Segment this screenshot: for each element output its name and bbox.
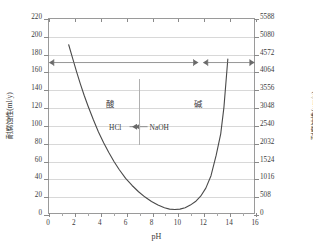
y-tick-label-left: 100 [12, 121, 42, 128]
y-tick-label-left: 140 [12, 86, 42, 93]
y-tick-label-left: 160 [12, 68, 42, 75]
y-tick-label-right: 2540 [260, 121, 274, 128]
x-tick-label: 10 [174, 220, 181, 227]
y-tick-label-right: 5080 [260, 32, 274, 39]
range-arrow-bars [48, 18, 255, 214]
y-tick-label-right: 4572 [260, 50, 274, 57]
hcl-label: HCl [109, 122, 121, 131]
y-tick-label-left: 120 [12, 103, 42, 110]
naoh-label: NaOH [150, 122, 169, 131]
y-tick-label-right: 0 [260, 210, 264, 217]
y-tick-label-right: 1016 [260, 175, 274, 182]
y-axis-title-left: 耐腐蚀性(ml/y) [3, 71, 14, 161]
x-tick-label: 4 [98, 220, 102, 227]
y-tick-label-left: 20 [12, 193, 42, 200]
alkali-label: 碱 [194, 97, 202, 109]
y-tick-label-left: 80 [12, 139, 42, 146]
y-tick-label-right: 1524 [260, 157, 274, 164]
y-tick-label-left: 180 [12, 50, 42, 57]
y-tick-label-left: 0 [12, 210, 42, 217]
y-tick-label-left: 220 [12, 14, 42, 21]
y-tick-label-left: 60 [12, 157, 42, 164]
y-tick-label-right: 5588 [260, 14, 274, 21]
x-tick-label: 6 [124, 220, 128, 227]
x-tick [256, 213, 257, 217]
x-tick-label: 16 [251, 220, 258, 227]
y-tick-label-right: 4064 [260, 68, 274, 75]
x-tick [256, 19, 257, 22]
y-tick-label-right: 3048 [260, 103, 274, 110]
x-tick-label: 2 [72, 220, 76, 227]
x-tick-label: 12 [200, 220, 207, 227]
y-tick-label-right: 2032 [260, 139, 274, 146]
neutral-divider-line [139, 79, 140, 145]
corrosion-ph-chart: 酸 碱 HCl NaOH pH 耐腐蚀性(ml/y) 耐腐蚀性(μm/y) 00… [0, 0, 313, 251]
y-tick-label-right: 3556 [260, 86, 274, 93]
y-tick-label-left: 200 [12, 32, 42, 39]
x-tick-label: 0 [46, 220, 50, 227]
y-tick-label-left: 40 [12, 175, 42, 182]
y-axis-title-right: 耐腐蚀性(μm/y) [308, 71, 314, 161]
x-axis-title: pH [0, 232, 313, 241]
x-tick-label: 8 [150, 220, 154, 227]
y-tick-label-right: 508 [260, 193, 271, 200]
x-tick-label: 14 [226, 220, 233, 227]
acid-label: 酸 [106, 97, 114, 109]
